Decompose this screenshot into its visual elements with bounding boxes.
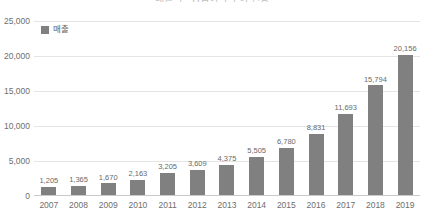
plot-area: 1,2051,3651,6702,1633,2053,6094,3755,505… [34, 21, 420, 196]
bar-value-label: 1,365 [69, 175, 88, 184]
bar-slot: 1,670 [93, 21, 123, 195]
bar-slot: 8,831 [301, 21, 331, 195]
x-axis-tick-label: 2008 [64, 198, 94, 212]
bar[interactable] [398, 55, 413, 195]
bar-slot: 20,156 [390, 21, 420, 195]
x-axis-tick-label: 2012 [182, 198, 212, 212]
bar[interactable] [249, 157, 264, 195]
legend-swatch-sales [41, 26, 49, 34]
x-axis-tick-label: 2017 [331, 198, 361, 212]
x-axis-tick-label: 2016 [301, 198, 331, 212]
x-axis-tick-label: 2015 [272, 198, 302, 212]
y-axis-tick-label: 0 [0, 192, 30, 201]
bar-slot: 6,780 [272, 21, 302, 195]
bar[interactable] [71, 186, 86, 196]
bar-value-label: 1,205 [39, 176, 58, 185]
bar-slot: 15,794 [361, 21, 391, 195]
bar[interactable] [279, 148, 294, 195]
x-axis-tick-label: 2011 [153, 198, 183, 212]
bar[interactable] [130, 180, 145, 195]
bar[interactable] [41, 187, 56, 195]
x-axis-tick-label: 2007 [34, 198, 64, 212]
bar-value-label: 3,609 [188, 159, 207, 168]
bar-slot: 2,163 [123, 21, 153, 195]
bar-value-label: 4,375 [218, 154, 237, 163]
bar[interactable] [219, 165, 234, 195]
x-axis-tick-label: 2009 [93, 198, 123, 212]
x-axis-tick-label: 2013 [212, 198, 242, 212]
bar-value-label: 15,794 [364, 75, 387, 84]
x-axis-tick-label: 2010 [123, 198, 153, 212]
bar-value-label: 6,780 [277, 137, 296, 146]
x-axis-tick-label: 2014 [242, 198, 272, 212]
bar[interactable] [190, 170, 205, 195]
bar-slot: 3,609 [182, 21, 212, 195]
bar-value-label: 11,693 [335, 103, 357, 112]
bar[interactable] [101, 183, 116, 195]
y-axis-tick-label: 10,000 [0, 122, 30, 131]
bar-slot: 3,205 [153, 21, 183, 195]
y-axis-tick-label: 20,000 [0, 52, 30, 61]
bar-chart: 매출액 · 영업이익 추이 현황 05,00010,00015,00020,00… [0, 0, 424, 221]
y-axis-tick-label: 25,000 [0, 17, 30, 26]
bar-value-label: 2,163 [129, 169, 148, 178]
bar-value-label: 8,831 [307, 123, 326, 132]
bar-value-label: 1,670 [99, 173, 118, 182]
x-axis-tick-label: 2019 [390, 198, 420, 212]
x-axis: 2007200820092010201120122013201420152016… [34, 198, 420, 212]
y-axis: 05,00010,00015,00020,00025,000 [0, 21, 30, 196]
chart-legend: 매출 [41, 25, 69, 34]
y-axis-tick-label: 15,000 [0, 87, 30, 96]
bar-slot: 1,205 [34, 21, 64, 195]
bar[interactable] [338, 114, 353, 195]
x-axis-tick-label: 2018 [361, 198, 391, 212]
bar-value-label: 5,505 [247, 146, 266, 155]
bar[interactable] [309, 134, 324, 195]
x-axis-line [34, 195, 420, 196]
y-axis-tick-label: 5,000 [0, 157, 30, 166]
bar-slot: 1,365 [64, 21, 94, 195]
legend-label-sales: 매출 [53, 25, 69, 34]
bar-value-label: 20,156 [394, 44, 417, 53]
bar[interactable] [160, 173, 175, 195]
bar[interactable] [368, 85, 383, 195]
bar-slot: 11,693 [331, 21, 361, 195]
bar-slot: 5,505 [242, 21, 272, 195]
bar-slot: 4,375 [212, 21, 242, 195]
chart-title: 매출액 · 영업이익 추이 현황 [0, 0, 424, 2]
bar-series-sales: 1,2051,3651,6702,1633,2053,6094,3755,505… [34, 21, 420, 195]
bar-value-label: 3,205 [158, 162, 177, 171]
